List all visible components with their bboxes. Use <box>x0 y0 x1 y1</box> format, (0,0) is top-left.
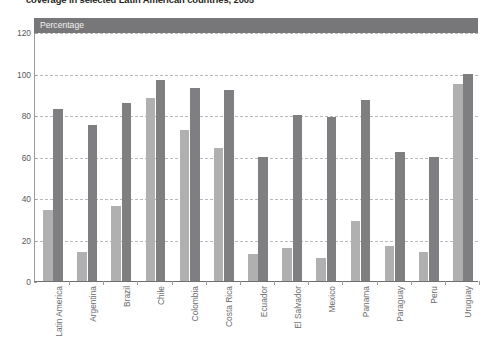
bar-group <box>69 33 103 281</box>
bar <box>146 98 156 281</box>
bar <box>214 148 224 281</box>
bar <box>316 258 326 281</box>
x-axis-tick-label: Panama <box>362 286 371 317</box>
bar-group <box>445 33 479 281</box>
bar <box>111 206 121 281</box>
x-axis-tick-label: Brazil <box>123 286 132 307</box>
bar-group <box>274 33 308 281</box>
x-axis-tick-label: Argentina <box>89 286 98 322</box>
bar-group <box>35 33 69 281</box>
x-axis-tick-mark <box>172 281 173 285</box>
bar <box>156 80 166 281</box>
bar-group <box>103 33 137 281</box>
x-axis-tick-mark <box>206 281 207 285</box>
y-axis-tick-mark <box>34 116 37 117</box>
x-axis-tick-label: Paraguay <box>396 286 405 322</box>
bar <box>429 157 439 282</box>
y-axis-tick-label: 100 <box>5 70 31 79</box>
x-axis-tick-mark <box>137 281 138 285</box>
x-axis-tick-label: Peru <box>430 286 439 304</box>
bar <box>122 103 132 281</box>
bar-group <box>137 33 171 281</box>
x-axis-tick-label: Uruguay <box>464 286 473 318</box>
y-axis-tick-label: 60 <box>5 153 31 162</box>
x-axis-tick-mark <box>377 281 378 285</box>
bar-group <box>377 33 411 281</box>
x-axis-tick-mark <box>342 281 343 285</box>
bar <box>395 152 405 281</box>
bar <box>224 90 234 281</box>
x-axis-tick-label: Colombia <box>191 286 200 321</box>
bar <box>385 246 395 281</box>
bar <box>77 252 87 281</box>
bar <box>419 252 429 281</box>
x-axis-tick-label: Mexico <box>328 286 337 313</box>
y-axis-tick-mark <box>34 158 37 159</box>
bar <box>293 115 303 281</box>
y-axis-tick-label: 0 <box>5 278 31 287</box>
y-axis-tick-mark <box>34 75 37 76</box>
bar <box>43 210 53 281</box>
y-axis-tick-label: 120 <box>5 29 31 38</box>
x-axis-tick-label: Ecuador <box>260 286 269 317</box>
x-axis-tick-mark <box>69 281 70 285</box>
x-axis-tick-mark <box>240 281 241 285</box>
bar-group <box>342 33 376 281</box>
chart-title: coverage in selected Latin American coun… <box>26 0 466 6</box>
x-axis-tick-label: Latin America <box>55 286 64 337</box>
y-axis-title: Percentage <box>40 20 84 31</box>
plot-area <box>34 33 478 282</box>
x-axis-tick-mark <box>445 281 446 285</box>
x-axis-tick-mark <box>308 281 309 285</box>
bar-group <box>172 33 206 281</box>
x-axis-tick-mark <box>103 281 104 285</box>
bar <box>453 84 463 281</box>
x-axis-tick-label: Chile <box>157 286 166 305</box>
y-axis-tick-mark <box>34 282 37 283</box>
axis-title-band: Percentage <box>34 18 478 33</box>
bar-group <box>206 33 240 281</box>
y-axis-tick-label: 20 <box>5 236 31 245</box>
bar-group <box>308 33 342 281</box>
bar <box>282 248 292 281</box>
y-axis-tick-label: 80 <box>5 112 31 121</box>
bar-group <box>240 33 274 281</box>
bar <box>190 88 200 281</box>
bar <box>180 130 190 281</box>
x-axis-tick-label: Costa Rica <box>225 286 234 327</box>
bar <box>463 74 473 282</box>
bar <box>88 125 98 281</box>
bar <box>53 109 63 281</box>
bar <box>351 221 361 281</box>
bar <box>361 100 371 281</box>
x-axis-tick-mark <box>274 281 275 285</box>
bar <box>248 254 258 281</box>
bar-group <box>411 33 445 281</box>
chart-figure: coverage in selected Latin American coun… <box>0 0 481 346</box>
x-axis-tick-label: El Salvador <box>294 286 303 329</box>
bar <box>258 157 268 282</box>
x-axis-labels: Latin AmericaArgentinaBrazilChileColombi… <box>34 286 478 346</box>
y-axis-tick-label: 40 <box>5 195 31 204</box>
y-axis: 020406080100120 <box>0 33 31 282</box>
x-axis-tick-mark <box>411 281 412 285</box>
bar <box>327 117 337 281</box>
y-axis-tick-mark <box>34 241 37 242</box>
x-axis-tick-mark <box>479 281 480 285</box>
y-axis-tick-mark <box>34 199 37 200</box>
y-axis-tick-mark <box>34 33 37 34</box>
